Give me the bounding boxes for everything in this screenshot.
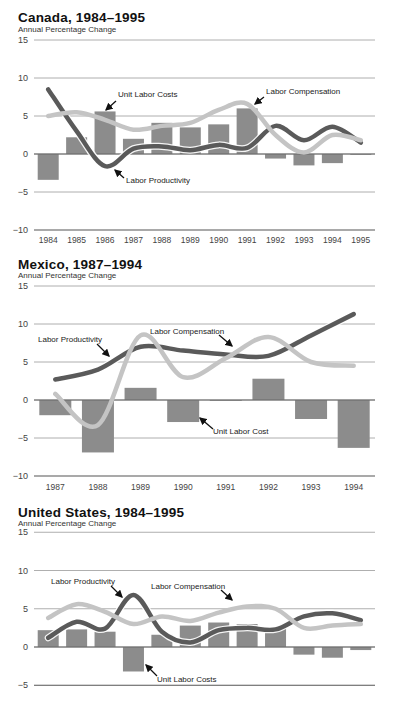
bar-unit-labor-costs (208, 124, 229, 154)
bar-unit-labor-costs (167, 400, 199, 422)
bar-unit-labor-costs (322, 647, 343, 658)
x-tick-label: 1990 (209, 235, 228, 245)
x-tick-label: 1989 (131, 482, 150, 492)
mexico-chart: 151050−5−1019871988198919901991199219931… (13, 281, 375, 492)
x-tick-label: 1989 (181, 235, 200, 245)
x-tick-label: 1994 (344, 482, 363, 492)
x-tick-label: 1984 (39, 235, 58, 245)
x-tick-label: 1995 (351, 235, 370, 245)
annotation-label: Labor Compensation (150, 327, 224, 336)
x-tick-label: 1987 (124, 235, 143, 245)
annotation-arrow-icon (255, 97, 264, 104)
x-tick-label: 1988 (152, 235, 171, 245)
y-tick-label: −10 (13, 471, 28, 481)
y-tick-label: 10 (18, 566, 28, 576)
bar-unit-labor-costs (293, 647, 314, 655)
annotation-arrow-icon (97, 344, 109, 356)
x-tick-label: 1994 (323, 235, 342, 245)
annotation-label: Unit Labor Costs (118, 90, 178, 99)
bar-unit-labor-costs (295, 400, 327, 419)
annotation-label: Unit Labor Cost (213, 427, 269, 436)
bar-unit-labor-costs (95, 632, 116, 647)
charts-canvas: 151050−5−1019841985198619871988198919901… (0, 0, 395, 707)
annotation-label: Labor Productivity (126, 176, 190, 185)
x-tick-label: 1987 (46, 482, 65, 492)
x-tick-label: 1988 (88, 482, 107, 492)
annotation-arrow-icon (111, 586, 122, 597)
bar-unit-labor-costs (38, 154, 59, 180)
x-tick-label: 1991 (216, 482, 235, 492)
bar-unit-labor-costs (125, 388, 157, 400)
annotation-label: Labor Productivity (38, 335, 102, 344)
bar-unit-labor-costs (265, 154, 286, 159)
annotation-arrow-icon (200, 418, 213, 429)
annotation-label: Unit Labor Costs (157, 675, 217, 684)
x-tick-label: 1992 (266, 235, 285, 245)
x-tick-label: 1986 (96, 235, 115, 245)
annotation-label: Labor Productivity (51, 577, 115, 586)
y-tick-label: −5 (18, 187, 28, 197)
y-tick-label: 10 (18, 73, 28, 83)
y-tick-label: −5 (18, 433, 28, 443)
annotation-label: Labor Compensation (151, 582, 225, 591)
y-tick-label: 15 (18, 281, 28, 291)
y-tick-label: −5 (18, 680, 28, 690)
y-tick-label: −10 (13, 225, 28, 235)
bar-unit-labor-costs (322, 154, 343, 163)
bar-unit-labor-costs (252, 379, 284, 400)
y-tick-label: 0 (23, 149, 28, 159)
us-chart: 151050−5Labor ProductivityLabor Compensa… (18, 527, 375, 690)
y-tick-label: 5 (23, 604, 28, 614)
x-tick-label: 1990 (174, 482, 193, 492)
annotation-arrow-icon (106, 101, 116, 110)
x-tick-label: 1993 (302, 482, 321, 492)
bar-unit-labor-costs (293, 154, 314, 165)
x-tick-label: 1991 (238, 235, 257, 245)
y-tick-label: 15 (18, 527, 28, 537)
annotation-arrow-icon (115, 170, 124, 178)
y-tick-label: 0 (23, 395, 28, 405)
canada-chart: 151050−5−1019841985198619871988198919901… (13, 35, 375, 245)
annotation-arrow-icon (219, 335, 232, 346)
y-tick-label: 15 (18, 35, 28, 45)
annotation-label: Labor Compensation (266, 87, 340, 96)
y-tick-label: 0 (23, 642, 28, 652)
y-tick-label: 5 (23, 111, 28, 121)
annotation-arrow-icon (221, 590, 232, 600)
bar-unit-labor-costs (123, 647, 144, 671)
bar-unit-labor-costs (66, 629, 87, 647)
x-tick-label: 1992 (259, 482, 278, 492)
x-tick-label: 1993 (294, 235, 313, 245)
y-tick-label: 10 (18, 319, 28, 329)
bar-unit-labor-costs (338, 400, 370, 448)
y-tick-label: 5 (23, 357, 28, 367)
x-tick-label: 1985 (67, 235, 86, 245)
annotation-arrow-icon (146, 665, 157, 676)
